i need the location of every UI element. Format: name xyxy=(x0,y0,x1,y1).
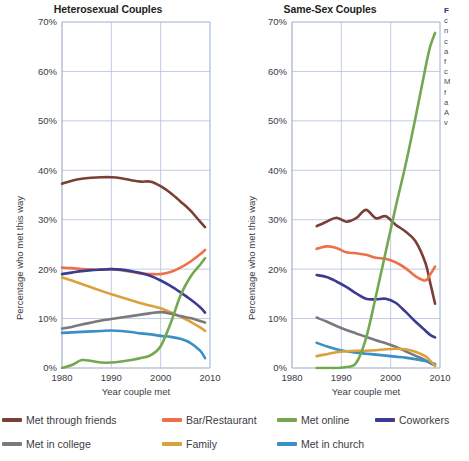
y-tick-label: 70% xyxy=(38,16,58,27)
x-tick-label: 1990 xyxy=(331,372,352,383)
x-tick-label: 1990 xyxy=(101,372,122,383)
legend-label-friends: Met through friends xyxy=(26,414,116,426)
side-note-line: c xyxy=(444,67,469,77)
x-tick-label: 2000 xyxy=(380,372,401,383)
legend-swatch-coworkers xyxy=(375,418,395,421)
legend: Met through friendsBar/RestaurantMet onl… xyxy=(0,412,469,461)
plot-heterosexual: 0%10%20%30%40%50%60%70%1980199020002010 xyxy=(0,0,232,400)
side-note-line: c xyxy=(444,37,469,47)
series-line xyxy=(62,258,205,368)
side-note-line: n xyxy=(444,26,469,36)
legend-item-family[interactable]: Family xyxy=(162,438,217,450)
plot-same-sex: 0%10%20%30%40%50%60%70%1980199020002010 xyxy=(232,0,440,400)
y-tick-label: 60% xyxy=(38,66,58,77)
y-tick-label: 70% xyxy=(268,16,288,27)
side-note-line: M xyxy=(444,77,469,87)
legend-swatch-family xyxy=(162,442,182,445)
legend-item-coworkers[interactable]: Coworkers xyxy=(375,414,449,426)
legend-item-online[interactable]: Met online xyxy=(277,414,349,426)
side-note-line: a xyxy=(444,98,469,108)
y-tick-label: 10% xyxy=(268,313,288,324)
legend-swatch-friends xyxy=(2,418,22,421)
legend-label-bar: Bar/Restaurant xyxy=(186,414,257,426)
x-tick-label: 1980 xyxy=(281,372,302,383)
y-axis-ticks: 0%10%20%30%40%50%60%70% xyxy=(38,16,58,373)
legend-item-church[interactable]: Met in church xyxy=(277,438,364,450)
legend-label-college: Met in college xyxy=(26,438,91,450)
x-tick-label: 2000 xyxy=(150,372,171,383)
legend-swatch-church xyxy=(277,442,297,445)
y-axis-label-heterosexual: Percentage who met this way xyxy=(14,196,25,320)
series-line xyxy=(317,33,435,368)
legend-label-church: Met in church xyxy=(301,438,364,450)
series-line xyxy=(62,312,205,328)
legend-item-bar[interactable]: Bar/Restaurant xyxy=(162,414,257,426)
series-line xyxy=(317,246,435,280)
legend-item-friends[interactable]: Met through friends xyxy=(2,414,116,426)
chart-panel-same-sex: Same-Sex Couples 0%10%20%30%40%50%60%70%… xyxy=(232,0,440,400)
side-note-line: f xyxy=(444,57,469,67)
y-tick-label: 30% xyxy=(38,214,58,225)
legend-label-coworkers: Coworkers xyxy=(399,414,449,426)
side-note-line: a xyxy=(444,47,469,57)
y-tick-label: 40% xyxy=(38,165,58,176)
figure-root: Heterosexual Couples 0%10%20%30%40%50%60… xyxy=(0,0,469,461)
y-axis-label-same-sex: Percentage who met this way xyxy=(246,196,257,320)
chart-panel-heterosexual: Heterosexual Couples 0%10%20%30%40%50%60… xyxy=(0,0,232,400)
y-tick-label: 40% xyxy=(268,165,288,176)
side-note-line: f xyxy=(444,88,469,98)
side-note-line: A xyxy=(444,108,469,118)
side-note-title: F xyxy=(444,6,469,16)
x-tick-label: 2010 xyxy=(429,372,450,383)
series-line xyxy=(317,275,435,337)
side-note-text: FcncafcMfaAv xyxy=(444,6,469,126)
y-tick-label: 50% xyxy=(268,115,288,126)
grid-lines xyxy=(292,22,440,368)
x-tick-label: 2010 xyxy=(199,372,220,383)
x-axis-ticks: 1980199020002010 xyxy=(51,372,220,383)
y-tick-label: 50% xyxy=(38,115,58,126)
legend-item-college[interactable]: Met in college xyxy=(2,438,91,450)
series-group xyxy=(62,177,205,368)
y-tick-label: 20% xyxy=(38,264,58,275)
x-axis-ticks: 1980199020002010 xyxy=(281,372,450,383)
legend-label-online: Met online xyxy=(301,414,349,426)
legend-swatch-online xyxy=(277,418,297,421)
y-tick-label: 20% xyxy=(268,264,288,275)
x-axis-label-same-sex: Year couple met xyxy=(292,386,440,397)
y-axis-ticks: 0%10%20%30%40%50%60%70% xyxy=(268,16,288,373)
y-tick-label: 10% xyxy=(38,313,58,324)
side-note-line: v xyxy=(444,118,469,126)
series-group xyxy=(317,33,435,368)
legend-swatch-bar xyxy=(162,418,182,421)
series-line xyxy=(62,330,205,358)
x-axis-label-heterosexual: Year couple met xyxy=(62,386,210,397)
x-tick-label: 1980 xyxy=(51,372,72,383)
side-note-line: c xyxy=(444,16,469,26)
y-tick-label: 30% xyxy=(268,214,288,225)
y-tick-label: 60% xyxy=(268,66,288,77)
legend-label-family: Family xyxy=(186,438,217,450)
legend-swatch-college xyxy=(2,442,22,445)
